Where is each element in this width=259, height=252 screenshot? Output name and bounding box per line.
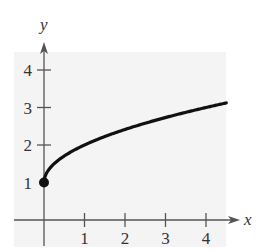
chart: 12341234 x y [0,0,259,252]
x-tick-label: 3 [161,229,170,248]
closed-point [39,178,49,188]
y-axis-label: y [38,15,48,34]
x-axis-label: x [243,210,252,229]
y-tick-label: 2 [24,136,33,155]
plot-background [14,52,226,247]
y-tick-label: 3 [24,99,33,118]
x-tick-label: 2 [121,229,130,248]
y-tick-label: 4 [24,61,33,80]
x-tick-label: 4 [202,229,211,248]
y-tick-label: 1 [24,174,33,193]
x-tick-label: 1 [80,229,89,248]
